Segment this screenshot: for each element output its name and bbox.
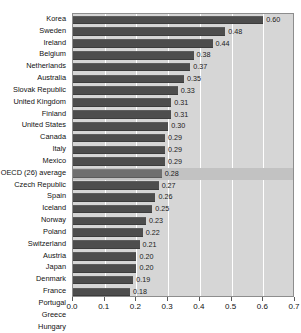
bar-value-label: 0.35	[184, 73, 201, 85]
bar	[73, 193, 155, 202]
category-label: OECD (26) average	[0, 167, 66, 179]
bar-value-label: 0.27	[159, 180, 176, 192]
bar-value-label: 0.44	[213, 38, 230, 50]
x-tick-mark	[262, 297, 263, 301]
bar-value-label: 0.23	[146, 215, 163, 227]
category-label: Mexico	[0, 155, 66, 167]
x-tick-label: 0.2	[120, 302, 150, 311]
bar	[73, 264, 136, 273]
category-label: Sweden	[0, 25, 66, 37]
bar	[73, 134, 165, 143]
bar-value-label: 0.19	[133, 274, 150, 286]
category-label: France	[0, 285, 66, 297]
bar-value-label: 0.30	[168, 120, 185, 132]
x-tick-mark	[231, 297, 232, 301]
x-tick-mark	[294, 297, 295, 301]
x-tick-label: 0.1	[89, 302, 119, 311]
category-label: Netherlands	[0, 60, 66, 72]
bar	[73, 98, 171, 107]
category-label: Norway	[0, 214, 66, 226]
bar-value-label: 0.20	[136, 251, 153, 263]
bar	[73, 110, 171, 119]
bar	[73, 122, 168, 131]
bar-value-label: 0.29	[165, 144, 182, 156]
bar	[73, 217, 146, 226]
x-tick-label: 0.7	[279, 302, 301, 311]
bar-value-label: 0.37	[190, 61, 207, 73]
category-label: Spain	[0, 190, 66, 202]
bar-value-label: 0.26	[155, 191, 172, 203]
bar	[73, 51, 194, 60]
bar-value-label: 0.31	[171, 97, 188, 109]
bar	[73, 169, 162, 178]
bar-value-label: 0.21	[140, 239, 157, 251]
category-label: United States	[0, 119, 66, 131]
bar	[73, 27, 225, 36]
category-label: Italy	[0, 143, 66, 155]
bar-value-label: 0.31	[171, 109, 188, 121]
bar-value-label: 0.25	[152, 203, 169, 215]
x-tick-label: 0.0	[57, 302, 87, 311]
bar	[73, 157, 165, 166]
category-axis-labels: KoreaSwedenIrelandBelgiumNetherlandsAust…	[0, 13, 69, 297]
bar	[73, 63, 190, 72]
bar-value-label: 0.28	[162, 168, 179, 180]
category-label: Ireland	[0, 37, 66, 49]
category-label: Australia	[0, 72, 66, 84]
bar-value-label: 0.29	[165, 132, 182, 144]
bar	[73, 146, 165, 155]
bar-value-label: 0.33	[178, 85, 195, 97]
category-label: Hungary	[0, 321, 66, 333]
bar-value-label: 0.38	[194, 49, 211, 61]
bar	[73, 240, 140, 249]
category-label: Belgium	[0, 48, 66, 60]
x-axis: 0.00.10.20.30.40.50.60.7	[72, 296, 294, 326]
x-tick-mark	[167, 297, 168, 301]
plot-area: 0.600.480.440.380.370.350.330.310.310.30…	[72, 13, 294, 297]
bar	[73, 86, 178, 95]
x-tick-mark	[104, 297, 105, 301]
bar	[73, 205, 152, 214]
x-tick-label: 0.6	[247, 302, 277, 311]
category-label: Canada	[0, 131, 66, 143]
bar-value-label: 0.48	[225, 26, 242, 38]
category-label: Finland	[0, 108, 66, 120]
x-tick-label: 0.3	[152, 302, 182, 311]
x-tick-mark	[135, 297, 136, 301]
bar-value-label: 0.60	[263, 14, 280, 26]
bar	[73, 228, 143, 237]
chart-title	[70, 0, 250, 1]
category-label: Poland	[0, 226, 66, 238]
category-label: United Kingdom	[0, 96, 66, 108]
bar-value-label: 0.20	[136, 262, 153, 274]
category-label: Austria	[0, 250, 66, 262]
category-label: Korea	[0, 13, 66, 25]
bar	[73, 39, 213, 48]
bar-value-label: 0.29	[165, 156, 182, 168]
x-tick-mark	[72, 297, 73, 301]
category-label: Czech Republic	[0, 179, 66, 191]
category-label: Slovak Republic	[0, 84, 66, 96]
category-label: Iceland	[0, 202, 66, 214]
bar	[73, 288, 130, 297]
x-tick-label: 0.4	[184, 302, 214, 311]
category-label: Japan	[0, 261, 66, 273]
bar	[73, 75, 184, 84]
x-tick-mark	[199, 297, 200, 301]
bar-value-label: 0.22	[143, 227, 160, 239]
bar	[73, 16, 263, 25]
bar	[73, 252, 136, 261]
category-label: Switzerland	[0, 238, 66, 250]
bar	[73, 181, 159, 190]
bar-chart: KoreaSwedenIrelandBelgiumNetherlandsAust…	[0, 0, 301, 333]
x-tick-label: 0.5	[216, 302, 246, 311]
bar	[73, 276, 133, 285]
category-label: Denmark	[0, 273, 66, 285]
